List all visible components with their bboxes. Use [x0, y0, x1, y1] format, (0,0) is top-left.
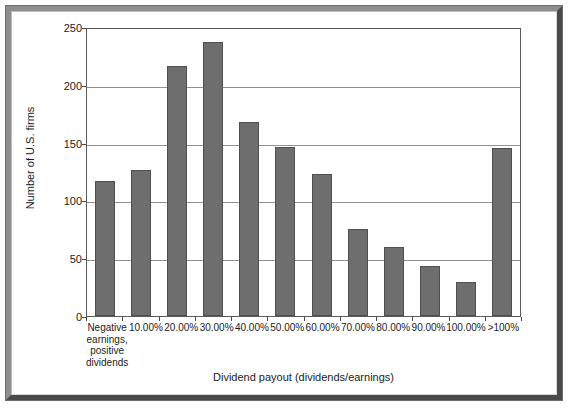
- bar-slot: [87, 29, 123, 316]
- x-tick-mark: [267, 317, 268, 321]
- x-tick-mark: [86, 317, 87, 321]
- bar[interactable]: [239, 122, 259, 316]
- bar-slot: [195, 29, 231, 316]
- y-tick-mark: [82, 201, 86, 202]
- y-axis-title: Number of U.S. firms: [24, 68, 36, 248]
- bar[interactable]: [492, 148, 512, 316]
- x-tick-label: 50.00%: [270, 322, 305, 372]
- x-tick-label: 100.00%: [446, 322, 485, 372]
- bar-slot: [123, 29, 159, 316]
- x-tick-label: 20.00%: [164, 322, 199, 372]
- bar[interactable]: [312, 174, 332, 316]
- bar-slot: [159, 29, 195, 316]
- y-tick-mark: [82, 144, 86, 145]
- y-tick-label: 100: [48, 196, 82, 207]
- x-tick-mark: [304, 317, 305, 321]
- y-tick-mark: [82, 86, 86, 87]
- x-tick-label: Negative earnings, positive dividends: [86, 322, 128, 372]
- y-tick-label: 200: [48, 80, 82, 91]
- x-tick-label: >100%: [486, 322, 521, 372]
- y-tick-label: 50: [48, 254, 82, 265]
- bar[interactable]: [275, 147, 295, 316]
- bar-slot: [267, 29, 303, 316]
- bar[interactable]: [456, 282, 476, 316]
- bar[interactable]: [203, 42, 223, 316]
- bar-slot: [484, 29, 520, 316]
- x-axis-tick-labels: Negative earnings, positive dividends10.…: [86, 322, 521, 372]
- bar[interactable]: [420, 266, 440, 316]
- bar-slot: [448, 29, 484, 316]
- bar[interactable]: [384, 247, 404, 316]
- x-tick-label: 80.00%: [376, 322, 411, 372]
- x-tick-label: 70.00%: [340, 322, 375, 372]
- bar-slot: [231, 29, 267, 316]
- x-tick-mark: [122, 317, 123, 321]
- bar-slot: [303, 29, 339, 316]
- bar[interactable]: [167, 66, 187, 316]
- x-tick-mark: [521, 317, 522, 321]
- plot-area: [86, 28, 521, 317]
- x-tick-label: 40.00%: [234, 322, 269, 372]
- bar[interactable]: [131, 170, 151, 316]
- x-tick-label: 10.00%: [128, 322, 163, 372]
- bar-chart: Number of U.S. firms 050100150200250 Neg…: [0, 0, 568, 413]
- x-tick-label: 60.00%: [305, 322, 340, 372]
- y-tick-label: 250: [48, 23, 82, 34]
- bar-slot: [376, 29, 412, 316]
- x-tick-mark: [231, 317, 232, 321]
- x-tick-mark: [159, 317, 160, 321]
- x-axis-title: Dividend payout (dividends/earnings): [86, 371, 521, 383]
- x-tick-mark: [340, 317, 341, 321]
- y-axis-tick-labels: 050100150200250: [44, 28, 82, 317]
- y-tick-mark: [82, 259, 86, 260]
- x-tick-mark: [195, 317, 196, 321]
- bar[interactable]: [348, 229, 368, 316]
- x-tick-mark: [449, 317, 450, 321]
- bar-series: [87, 29, 520, 316]
- y-tick-label: 0: [48, 312, 82, 323]
- bar-slot: [340, 29, 376, 316]
- x-tick-label: 30.00%: [199, 322, 234, 372]
- bar-slot: [412, 29, 448, 316]
- bar[interactable]: [95, 181, 115, 316]
- x-tick-mark: [485, 317, 486, 321]
- y-tick-mark: [82, 28, 86, 29]
- x-tick-mark: [412, 317, 413, 321]
- x-tick-label: 90.00%: [411, 322, 446, 372]
- y-tick-label: 150: [48, 138, 82, 149]
- x-tick-mark: [376, 317, 377, 321]
